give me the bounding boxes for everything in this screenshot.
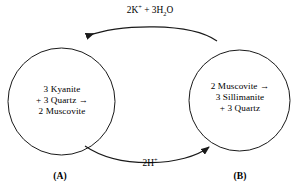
bottom-label-superscript: + — [154, 156, 158, 163]
node-a-caption: (A) — [32, 170, 88, 181]
edge-arrow-b-to-a — [87, 27, 217, 41]
node-a-equation: 3 Kyanite + 3 Quartz → 2 Muscovite — [8, 84, 116, 118]
top-edge-label: 2K+ + 3H2O — [95, 5, 205, 15]
node-b-line-3: + 3 Quartz — [188, 103, 292, 114]
node-a-line-3: 2 Muscovite — [8, 106, 116, 117]
node-b-line-2: 3 Sillimanite — [188, 92, 292, 103]
reaction-cycle-diagram: 3 Kyanite + 3 Quartz → 2 Muscovite 2 Mus… — [0, 0, 295, 192]
bottom-label-part-a: 2H — [142, 158, 153, 168]
bottom-edge-label: 2H+ — [110, 158, 190, 168]
node-b-equation: 2 Muscovite → 3 Sillimanite + 3 Quartz — [188, 81, 292, 115]
node-a-line-2: + 3 Quartz → — [8, 95, 116, 106]
top-label-part-a: 2K — [127, 5, 138, 15]
node-b-caption: (B) — [212, 170, 268, 181]
node-b-line-1: 2 Muscovite → — [188, 81, 292, 92]
top-label-part-b: + 3H — [142, 5, 163, 15]
top-label-part-c: O — [166, 5, 173, 15]
node-a-line-1: 3 Kyanite — [8, 84, 116, 95]
